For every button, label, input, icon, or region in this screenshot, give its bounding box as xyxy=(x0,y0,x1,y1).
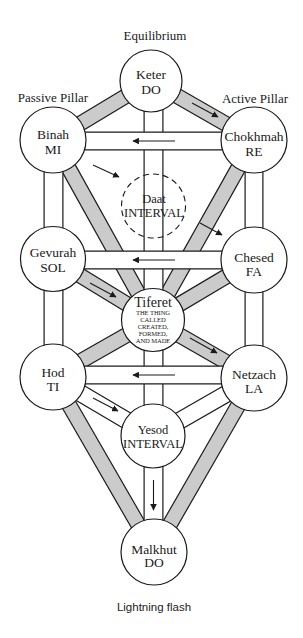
tiferet-subtitle-line: CREATED, xyxy=(138,323,169,330)
chokhmah-note: RE xyxy=(245,144,262,159)
tiferet-subtitle-line: CALLED xyxy=(140,316,166,323)
tiferet-subtitle-line: FORMED, xyxy=(139,330,168,337)
netzach-note: LA xyxy=(245,381,263,396)
gevurah-name: Gevurah xyxy=(30,245,77,260)
arrow-binah-daat-icon xyxy=(93,165,119,177)
tree-of-life-diagram: Equilibrium Passive Pillar Active Pillar… xyxy=(0,0,303,638)
tiferet-name: Tiferet xyxy=(134,295,172,310)
heading-active-pillar: Active Pillar xyxy=(222,91,289,106)
yesod-name: Yesod xyxy=(138,423,169,437)
malkhut-note: DO xyxy=(144,555,164,570)
tiferet-subtitle-line: AND MADE xyxy=(136,337,171,344)
yesod-note: INTERVAL xyxy=(123,437,183,451)
chesed-note: FA xyxy=(246,264,263,279)
chokhmah-name: Chokhmah xyxy=(224,129,283,144)
chesed-name: Chesed xyxy=(234,250,274,265)
keter-note: DO xyxy=(141,82,161,97)
daat-name: Daat xyxy=(142,192,166,206)
binah-note: MI xyxy=(45,142,62,157)
hod-note: TI xyxy=(47,379,60,394)
binah-name: Binah xyxy=(37,127,69,142)
gevurah-note: SOL xyxy=(40,260,66,275)
heading-passive-pillar: Passive Pillar xyxy=(18,90,89,105)
heading-equilibrium: Equilibrium xyxy=(124,28,187,43)
daat-note: INTERVAL xyxy=(124,206,184,220)
hod-name: Hod xyxy=(41,365,64,380)
netzach-name: Netzach xyxy=(232,367,276,382)
caption-lightning-flash: Lightning flash xyxy=(117,601,191,613)
keter-name: Keter xyxy=(136,67,166,82)
tiferet-subtitle-line: THE THING xyxy=(136,309,170,316)
